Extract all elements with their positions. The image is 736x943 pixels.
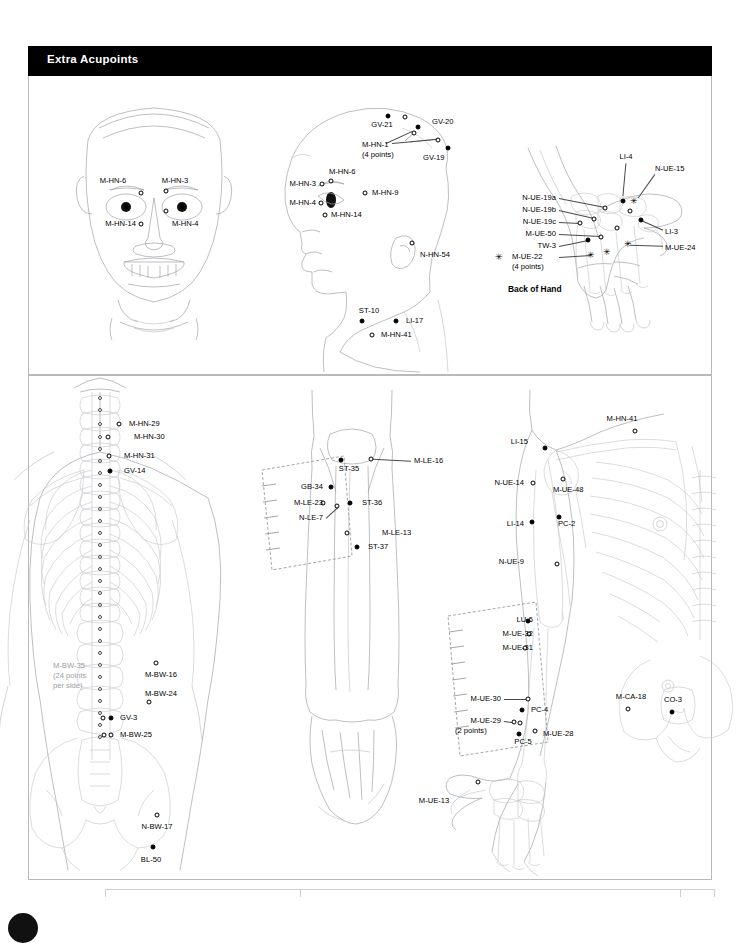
acupoint-filled <box>329 485 334 490</box>
acupoint-open <box>154 661 159 666</box>
acupoint-label: M-UE-30 <box>471 694 501 703</box>
acupoint-label: M-HN-41 <box>381 330 412 339</box>
acupoint-spine-marker <box>98 579 102 583</box>
acupoint-label: M-HN-1 <box>362 140 389 149</box>
acupoint-filled <box>108 469 113 474</box>
acupoint-spine-marker <box>98 435 102 439</box>
acupoint-label: N-UE-9 <box>499 557 524 566</box>
acupoint-label: GV-19 <box>423 153 445 162</box>
acupoint-open <box>603 206 608 211</box>
acupoint-label: (4 points) <box>512 262 544 271</box>
acupoint-label: M-BW-35 <box>53 661 85 670</box>
acupoint-label: M-UE-24 <box>665 243 695 252</box>
acupoint-spine-marker <box>98 396 102 400</box>
acupoint-label: M-UE-32 <box>503 629 533 638</box>
acupoint-open <box>335 504 340 509</box>
acupoint-label: M-HN-29 <box>129 419 160 428</box>
acupoint-label: LI-15 <box>511 437 528 446</box>
acupoint-label: M-HN-6 <box>329 167 356 176</box>
acupoint-filled <box>586 238 591 243</box>
acupoint-label: N-UE-15 <box>655 164 685 173</box>
acupoint-filled <box>416 125 421 130</box>
acupoint-open <box>628 209 633 214</box>
acupoint-label: M-CA-18 <box>616 692 646 701</box>
acupoint-open <box>599 235 604 240</box>
acupoint-spine-marker <box>98 687 102 691</box>
acupoint-star: ✳ <box>624 240 632 248</box>
acupoint-label: M-UE-50 <box>526 229 556 238</box>
acupoint-filled <box>621 199 626 204</box>
acupoint-spine-marker <box>98 615 102 619</box>
acupoint-label: M-HN-3 <box>162 176 189 185</box>
acupoint-label: LI-17 <box>406 316 423 325</box>
acupoint-open <box>323 213 328 218</box>
acupoint-label: M-HN-31 <box>124 451 155 460</box>
acupoint-open <box>526 697 531 702</box>
acupoint-label: M-UE-31 <box>503 643 533 652</box>
acupoint-spine-marker <box>98 459 102 463</box>
acupoint-open <box>403 115 408 120</box>
acupoint-filled <box>339 458 344 463</box>
acupoint-spine-marker <box>98 735 102 739</box>
acupoint-star: ✳ <box>495 253 503 261</box>
acupoint-filled <box>386 114 391 119</box>
acupoint-filled <box>180 205 185 210</box>
acupoint-open <box>370 333 375 338</box>
acupoint-spine-marker <box>98 627 102 631</box>
acupoint-label: M-HN-30 <box>134 432 165 441</box>
footer-rule-tick-2 <box>680 889 681 897</box>
acupoint-open <box>155 813 160 818</box>
acupoint-open <box>139 191 144 196</box>
acupoint-spine-marker <box>98 567 102 571</box>
acupoint-label: TW-3 <box>538 241 556 250</box>
acupoint-label: M-LE-23 <box>294 498 323 507</box>
acupoint-label: (24 points <box>53 671 86 680</box>
acupoint-open <box>319 201 324 206</box>
acupoint-spine-marker <box>98 651 102 655</box>
acupoint-open <box>164 189 169 194</box>
footer-rule <box>105 889 715 897</box>
acupoint-label: M-UE-13 <box>419 796 449 805</box>
acupoint-spine-marker <box>98 483 102 487</box>
acupoint-open <box>592 217 597 222</box>
acupoint-open <box>102 733 107 738</box>
acupoint-spine-marker <box>98 471 102 475</box>
acupoint-spine-marker <box>98 519 102 523</box>
acupoint-label: M-BW-16 <box>145 670 177 679</box>
acupoint-spine-marker <box>98 639 102 643</box>
acupoint-open <box>410 241 415 246</box>
acupoint-filled <box>517 732 522 737</box>
acupoint-open <box>369 457 374 462</box>
acupoint-label: per side) <box>53 681 83 690</box>
acupoint-label: N-UE-19c <box>523 217 556 226</box>
acupoint-label: N-BW-17 <box>141 822 172 831</box>
page-title: Extra Acupoints <box>47 53 139 65</box>
acupoint-open <box>436 138 441 143</box>
acupoint-label: PC-4 <box>531 705 548 714</box>
acupoint-spine-marker <box>98 408 102 412</box>
acupoint-spine-marker <box>98 723 102 727</box>
acupoint-label: M-HN-3 <box>289 179 316 188</box>
acupoint-open <box>107 454 112 459</box>
acupoint-filled <box>124 205 129 210</box>
acupoint-spine-marker <box>98 507 102 511</box>
acupoint-filled <box>530 520 535 525</box>
footer-rule-tick-1 <box>300 889 301 897</box>
acupoint-spine-marker <box>98 422 102 426</box>
acupoint-open <box>320 182 325 187</box>
acupoint-filled <box>394 319 399 324</box>
acupoint-spine-marker <box>98 591 102 595</box>
acupoint-label: GB-34 <box>301 482 323 491</box>
acupoint-spine-marker <box>98 663 102 667</box>
acupoint-filled <box>348 501 353 506</box>
acupoint-label: ST-37 <box>368 542 388 551</box>
acupoint-open <box>512 720 517 725</box>
acupoint-filled <box>670 710 675 715</box>
acupoint-filled <box>639 218 644 223</box>
acupoint-label: M-UE-22 <box>512 252 542 261</box>
acupoint-open <box>412 131 417 136</box>
acupoint-label: BL-50 <box>141 855 161 864</box>
acupoint-label: N-LE-7 <box>299 513 323 522</box>
acupoint-label: M-HN-41 <box>607 414 638 423</box>
